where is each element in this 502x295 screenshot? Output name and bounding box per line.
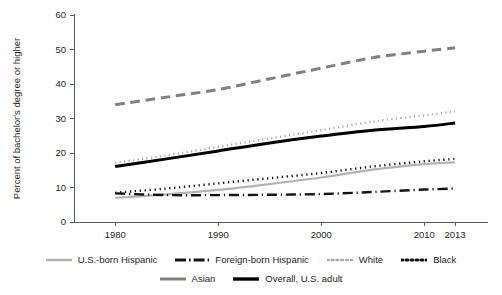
legend-label: Foreign-born Hispanic: [215, 254, 308, 265]
y-tick-label: 60: [55, 9, 66, 20]
series-line-black: [115, 159, 455, 193]
chart-legend: U.S.-born HispanicForeign-born HispanicW…: [0, 246, 502, 295]
legend-label: Asian: [192, 273, 216, 284]
line-swatch-solid-midgray-icon: [160, 273, 186, 285]
legend-item-u-s-born-hispanic[interactable]: U.S.-born Hispanic: [46, 254, 158, 266]
line-chart-svg: 010203040506019801990200020102013Percent…: [0, 0, 502, 245]
line-swatch-solid-black-icon: [233, 273, 259, 285]
legend-item-black[interactable]: Black: [401, 254, 456, 266]
legend-label: Black: [433, 254, 456, 265]
legend-item-foreign-born-hispanic[interactable]: Foreign-born Hispanic: [175, 254, 308, 266]
legend-label: U.S.-born Hispanic: [78, 254, 158, 265]
y-tick-label: 10: [55, 182, 66, 193]
plot-area: 010203040506019801990200020102013Percent…: [0, 0, 502, 245]
line-swatch-solid-gray-icon: [46, 254, 72, 266]
x-tick-label: 1980: [105, 229, 126, 240]
series-line-u-s-born-hispanic: [115, 162, 455, 198]
series-line-asian: [115, 48, 455, 105]
legend-item-overall-u-s-adult[interactable]: Overall, U.S. adult: [233, 273, 342, 285]
legend-item-white[interactable]: White: [327, 254, 383, 266]
series-line-overall-u-s-adult: [115, 123, 455, 166]
x-tick-label: 1990: [208, 229, 229, 240]
y-tick-label: 50: [55, 44, 66, 55]
x-tick-label: 2013: [445, 229, 466, 240]
legend-row-1: U.S.-born HispanicForeign-born HispanicW…: [0, 250, 502, 269]
x-tick-label: 2010: [414, 229, 435, 240]
legend-label: Overall, U.S. adult: [265, 273, 342, 284]
x-tick-label: 2000: [311, 229, 332, 240]
y-tick-label: 0: [61, 216, 66, 227]
legend-label: White: [359, 254, 383, 265]
y-tick-label: 40: [55, 78, 66, 89]
line-swatch-dotted-gray-icon: [327, 254, 353, 266]
line-swatch-dotted-black-icon: [401, 254, 427, 266]
chart-figure: 010203040506019801990200020102013Percent…: [0, 0, 502, 295]
y-axis-title: Percent of bachelor's degree or higher: [11, 38, 22, 199]
series-line-white: [115, 111, 455, 162]
legend-row-2: AsianOverall, U.S. adult: [0, 269, 502, 288]
legend-item-asian[interactable]: Asian: [160, 273, 216, 285]
y-tick-label: 30: [55, 113, 66, 124]
line-swatch-dashdot-black-icon: [175, 254, 209, 266]
y-tick-label: 20: [55, 147, 66, 158]
